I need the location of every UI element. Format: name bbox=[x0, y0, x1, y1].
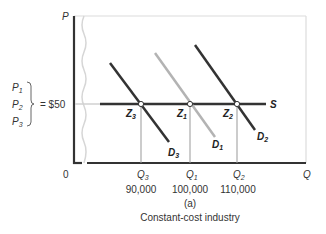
q2-value: 110,000 bbox=[220, 184, 256, 195]
chart-caption: Constant-cost industry bbox=[140, 212, 240, 223]
brace bbox=[27, 82, 34, 126]
y-axis-label: P bbox=[62, 11, 69, 22]
demand-curve-d1 bbox=[155, 53, 215, 137]
chart: P Q 0 P1 P2 P3 = $50 S Z3 Z1 Z2 D1 D2 D3… bbox=[0, 0, 326, 234]
axis-break-line bbox=[82, 16, 86, 163]
z2-label: Z2 bbox=[222, 108, 233, 120]
d2-label: D2 bbox=[257, 131, 268, 143]
d3-label: D3 bbox=[168, 147, 179, 159]
q1-value: 100,000 bbox=[172, 184, 209, 195]
panel-label: (a) bbox=[184, 198, 196, 209]
p1-label: P1 bbox=[12, 82, 23, 94]
p2-label: P2 bbox=[12, 99, 23, 111]
d1-label: D1 bbox=[212, 139, 223, 151]
z3-label: Z3 bbox=[125, 108, 136, 120]
equilibrium-point-z1 bbox=[187, 101, 192, 106]
origin-label: 0 bbox=[63, 169, 69, 180]
equilibrium-point-z2 bbox=[234, 101, 239, 106]
supply-label: S bbox=[270, 99, 277, 110]
q2-tick-label: Q2 bbox=[233, 169, 245, 181]
price-value-label: = $50 bbox=[40, 99, 66, 110]
q3-value: 90,000 bbox=[126, 184, 157, 195]
q3-tick-label: Q3 bbox=[137, 169, 149, 181]
p3-label: P3 bbox=[12, 116, 23, 128]
q1-tick-label: Q1 bbox=[186, 169, 198, 181]
equilibrium-point-z3 bbox=[138, 101, 143, 106]
z1-label: Z1 bbox=[176, 108, 187, 120]
x-axis-label: Q bbox=[303, 169, 311, 180]
